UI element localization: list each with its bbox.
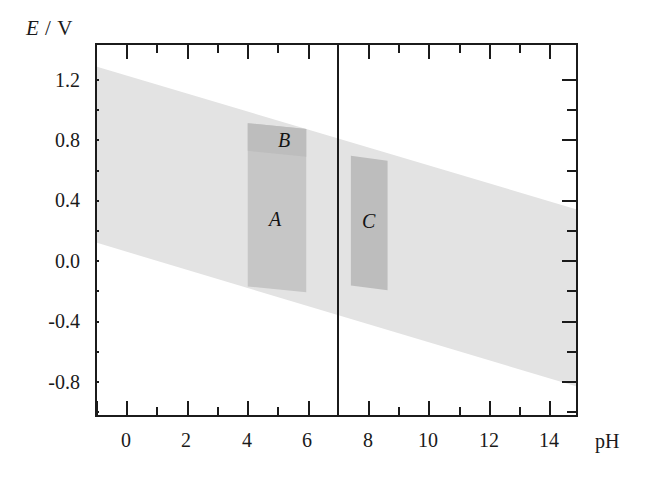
x-tick-minor-9 <box>398 407 400 415</box>
x-tick-top-major-12 <box>489 45 491 59</box>
y-axis-title-unit: / V <box>39 16 73 40</box>
plot-area: A B C <box>95 43 578 417</box>
x-tick-minor-3 <box>217 407 219 415</box>
x-tick-minor-1 <box>156 407 158 415</box>
x-tick-top-major-8 <box>368 45 370 59</box>
y-tick-minor-0p2 <box>95 230 99 232</box>
y-tick-right-major-0p0 <box>562 260 576 262</box>
x-tick-major-2 <box>187 401 189 415</box>
x-tick-minor-11 <box>459 407 461 415</box>
x-tick-major-12 <box>489 401 491 415</box>
y-tick-label-6: -0.8 <box>4 372 80 392</box>
y-tick-right-minor-0p2 <box>567 230 576 232</box>
x-tick-top-major-0 <box>126 45 128 59</box>
y-tick-label-5: -0.4 <box>4 311 80 331</box>
region-label-c: C <box>362 210 375 233</box>
x-tick-top-major-2 <box>187 45 189 59</box>
y-tick-minor-m0p6 <box>95 351 99 353</box>
y-axis-title: E / V <box>26 16 73 41</box>
y-tick-minor-1p0 <box>95 109 99 111</box>
y-tick-minor-0p6 <box>95 170 99 172</box>
x-tick-top-minor-9 <box>398 45 400 53</box>
x-tick-major-8 <box>368 401 370 415</box>
y-tick-major-m0p8 <box>95 381 99 383</box>
y-tick-major-1p2 <box>95 79 99 81</box>
y-tick-minor-m1p0 <box>95 411 99 413</box>
y-tick-right-minor-m0p6 <box>567 351 576 353</box>
y-tick-label-1: 1.2 <box>4 70 80 90</box>
y-tick-major-0p0 <box>95 260 99 262</box>
region-label-a: A <box>269 208 281 231</box>
region-label-b: B <box>278 129 290 152</box>
y-tick-right-minor-0p6 <box>567 170 576 172</box>
y-tick-right-minor-m1p0 <box>567 411 576 413</box>
y-tick-label-4: 0.0 <box>4 251 80 271</box>
x-tick-top-major-6 <box>308 45 310 59</box>
x-tick-top-major-10 <box>428 45 430 59</box>
y-tick-right-major-0p4 <box>562 200 576 202</box>
y-tick-right-minor-1p0 <box>567 109 576 111</box>
y-axis-title-symbol: E <box>26 16 39 40</box>
y-tick-right-major-1p2 <box>562 79 576 81</box>
x-tick-major-14 <box>549 401 551 415</box>
x-tick-top-major-4 <box>247 45 249 59</box>
x-tick-major-10 <box>428 401 430 415</box>
x-tick-label-3: 4 <box>227 430 267 450</box>
x-tick-top-minor-11 <box>459 45 461 53</box>
y-tick-label-2: 0.8 <box>4 130 80 150</box>
y-tick-major-0p8 <box>95 139 99 141</box>
x-tick-top-minor-1 <box>156 45 158 53</box>
x-tick-label-5: 8 <box>348 430 388 450</box>
pourbaix-diagram-figure: E / V pH 1.2 0.8 0.4 0.0 -0.4 -0.8 0 2 4… <box>0 0 646 479</box>
x-tick-minor-5 <box>277 407 279 415</box>
x-axis-title: pH <box>595 430 619 453</box>
y-tick-right-minor-m0p2 <box>567 290 576 292</box>
x-tick-top-minor-13 <box>519 45 521 53</box>
x-tick-major-6 <box>308 401 310 415</box>
y-tick-major-0p4 <box>95 200 99 202</box>
x-tick-label-4: 6 <box>287 430 327 450</box>
x-tick-label-2: 2 <box>166 430 206 450</box>
x-tick-label-1: 0 <box>106 430 146 450</box>
y-tick-right-major-m0p8 <box>562 381 576 383</box>
x-tick-top-minor-5 <box>277 45 279 53</box>
x-tick-minor-13 <box>519 407 521 415</box>
y-tick-minor-m0p2 <box>95 290 99 292</box>
y-tick-label-3: 0.4 <box>4 190 80 210</box>
neutral-ph-line <box>337 45 339 417</box>
x-tick-top-minor-3 <box>217 45 219 53</box>
x-tick-label-8: 14 <box>529 430 569 450</box>
y-tick-major-m0p4 <box>95 321 99 323</box>
y-tick-right-major-0p8 <box>562 139 576 141</box>
x-tick-top-major-14 <box>549 45 551 59</box>
y-tick-right-major-m0p4 <box>562 321 576 323</box>
x-tick-major-4 <box>247 401 249 415</box>
x-tick-label-7: 12 <box>469 430 509 450</box>
x-tick-label-6: 10 <box>408 430 448 450</box>
x-tick-major-0 <box>126 401 128 415</box>
